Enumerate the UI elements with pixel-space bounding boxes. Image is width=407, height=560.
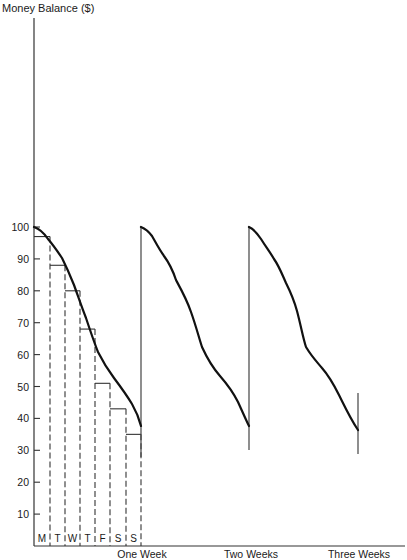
y-tick-label: 60 xyxy=(17,349,29,361)
day-label: F xyxy=(99,533,105,544)
week3-balance-curve xyxy=(249,227,358,430)
y-tick-label: 90 xyxy=(17,253,29,265)
day-labels: MTWTFSS xyxy=(38,533,137,544)
y-tick-label: 40 xyxy=(17,412,29,424)
day-label: M xyxy=(38,533,46,544)
day-label: T xyxy=(54,533,60,544)
y-tick-label: 80 xyxy=(17,285,29,297)
x-label-three-weeks: Three Weeks xyxy=(328,548,390,560)
balance-curves xyxy=(34,227,358,430)
y-tick-label: 30 xyxy=(17,444,29,456)
y-tick-label: 70 xyxy=(17,317,29,329)
y-tick-label: 50 xyxy=(17,381,29,393)
weekly-reset-lines xyxy=(141,227,358,457)
day-label: W xyxy=(68,533,78,544)
y-tick-label: 20 xyxy=(17,476,29,488)
day-label: S xyxy=(130,533,137,544)
day-label: T xyxy=(84,533,90,544)
day-label: S xyxy=(115,533,122,544)
money-balance-chart: 102030405060708090100 MTWTFSS One Week T… xyxy=(0,0,407,560)
y-ticks: 102030405060708090100 xyxy=(11,221,40,520)
x-label-one-week: One Week xyxy=(117,548,167,560)
week2-balance-curve xyxy=(141,227,249,426)
y-tick-label: 10 xyxy=(17,508,29,520)
x-label-two-weeks: Two Weeks xyxy=(224,548,278,560)
y-tick-label: 100 xyxy=(11,221,29,233)
